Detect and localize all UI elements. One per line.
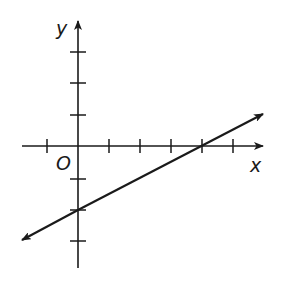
- plotted-line: [78, 114, 263, 210]
- origin-label: O: [56, 152, 71, 174]
- coordinate-plane: y x O: [0, 0, 283, 288]
- plotted-line-lower: [22, 210, 78, 240]
- x-axis-label: x: [249, 154, 262, 176]
- y-axis-label: y: [55, 17, 68, 39]
